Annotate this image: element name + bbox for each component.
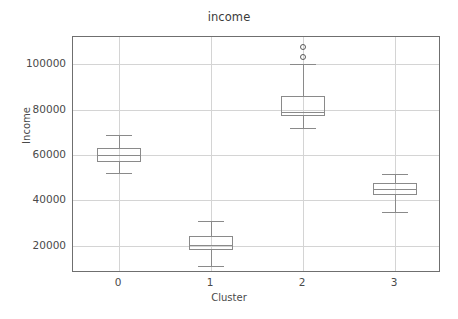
x-tick-label: 2 (282, 276, 322, 288)
y-tick-label: 60000 (0, 148, 66, 160)
x-tick-label: 0 (98, 276, 138, 288)
y-tick-label: 40000 (0, 193, 66, 205)
x-axis-label: Cluster (0, 292, 458, 303)
whisker-lower (395, 195, 396, 212)
chart-title: income (0, 10, 458, 24)
cap-upper (382, 174, 408, 175)
plot-area (72, 36, 440, 272)
x-tick-label: 3 (374, 276, 414, 288)
chart-figure: income 20000400006000080000100000 0123 C… (0, 0, 458, 319)
whisker-upper (395, 174, 396, 183)
y-tick-label: 80000 (0, 103, 66, 115)
y-axis-label: Income (21, 86, 32, 166)
y-tick-label: 20000 (0, 239, 66, 251)
median-line (373, 189, 417, 190)
y-tick-label: 100000 (0, 57, 66, 69)
x-tick-label: 1 (190, 276, 230, 288)
cap-lower (382, 212, 408, 213)
boxplot-box-group (73, 37, 439, 271)
